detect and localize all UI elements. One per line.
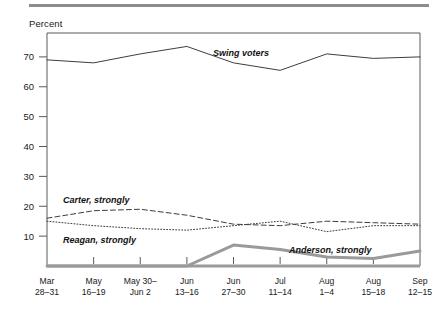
plot-frame — [47, 33, 420, 266]
x-tick-label: 11–14 — [268, 287, 291, 297]
line-chart-plot: 10203040506070 Swing votersCarter, stron… — [0, 0, 435, 309]
x-tick-label: 28–31 — [35, 287, 59, 297]
x-tick-label: Jun — [227, 276, 241, 286]
x-tick-label: Jun 2 — [130, 287, 151, 297]
y-axis-ticks: 10203040506070 — [23, 51, 47, 241]
x-tick-label: May 30– — [124, 276, 157, 286]
y-tick-label: 70 — [23, 51, 34, 62]
series-label: Anderson, strongly — [288, 245, 373, 255]
x-tick-label: Jun — [180, 276, 194, 286]
y-tick-label: 40 — [23, 141, 34, 152]
x-tick-label: 1–4 — [320, 287, 335, 297]
x-axis-labels: Mar28–31May16–19May 30–Jun 2Jun13–16Jun2… — [35, 276, 432, 297]
x-tick-label: Sep — [412, 276, 428, 286]
x-tick-label: 12–15 — [408, 287, 432, 297]
series-label: Reagan, strongly — [63, 235, 137, 245]
x-tick-label: May — [86, 276, 103, 286]
x-tick-label: Jul — [275, 276, 286, 286]
x-tick-label: 16–19 — [82, 287, 106, 297]
y-tick-label: 10 — [23, 231, 34, 242]
y-tick-label: 60 — [23, 81, 34, 92]
y-tick-label: 30 — [23, 171, 34, 182]
y-tick-label: 20 — [23, 201, 34, 212]
x-tick-label: Mar — [40, 276, 55, 286]
x-tick-label: 13–16 — [175, 287, 199, 297]
x-tick-label: 15–18 — [361, 287, 385, 297]
series-label: Carter, strongly — [63, 195, 131, 205]
series-annotations: Swing votersCarter, stronglyReagan, stro… — [63, 48, 373, 255]
series-line — [47, 209, 420, 225]
x-tick-label: Aug — [366, 276, 382, 286]
x-tick-label: Aug — [319, 276, 335, 286]
chart-figure: Percent 10203040506070 Swing votersCarte… — [0, 0, 435, 309]
series-line — [47, 221, 420, 231]
x-tick-label: 27–30 — [222, 287, 246, 297]
y-tick-label: 50 — [23, 111, 34, 122]
series-label: Swing voters — [213, 48, 269, 58]
series-layer — [47, 46, 420, 266]
